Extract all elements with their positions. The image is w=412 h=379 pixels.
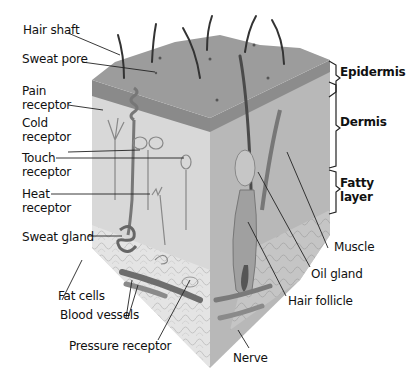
layer-brackets [329,61,340,214]
label-blood-vessels: Blood vessels [60,308,139,322]
label-heat-receptor-line1: Heat [22,187,50,201]
label-heat-receptor-line2: receptor [22,201,71,215]
label-fatty-layer-line2: layer [340,190,373,204]
label-cold-receptor-line1: Cold [22,116,48,130]
label-touch-receptor-line1: Touch [22,151,55,165]
label-pain-receptor-line2: receptor [22,98,71,112]
label-pain-receptor-line1: Pain [22,84,46,98]
label-muscle: Muscle [334,240,374,254]
label-cold-receptor-line2: receptor [22,130,71,144]
label-epidermis: Epidermis [340,65,406,79]
label-fatty-layer-line1: Fatty [340,176,374,190]
label-nerve: Nerve [233,351,268,365]
label-hair-shaft: Hair shaft [23,23,79,37]
label-sweat-pore: Sweat pore [22,52,88,66]
label-fat-cells: Fat cells [58,289,105,303]
label-touch-receptor-line2: receptor [22,165,71,179]
label-pressure-receptor: Pressure receptor [69,339,171,353]
label-hair-follicle: Hair follicle [288,294,353,308]
label-dermis: Dermis [340,115,387,129]
label-oil-gland: Oil gland [311,267,363,281]
label-sweat-gland: Sweat gland [22,230,94,244]
